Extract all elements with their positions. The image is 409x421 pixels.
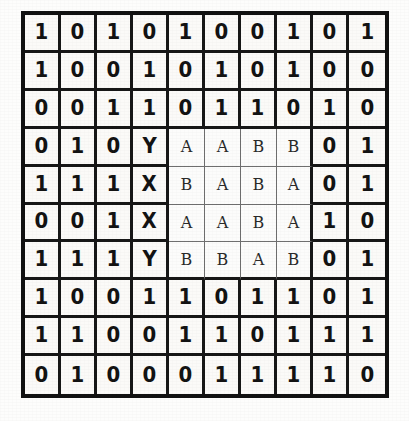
cell-value: 1 [287, 325, 301, 346]
bit-cell: 1 [277, 53, 313, 91]
cell-value: 0 [35, 98, 49, 119]
bit-cell: 1 [349, 280, 385, 318]
bit-cell: 1 [277, 280, 313, 318]
bit-cell: 1 [277, 318, 313, 356]
cell-value: B [181, 252, 193, 268]
cell-value: 0 [71, 287, 85, 308]
bit-cell: 0 [61, 280, 97, 318]
cell-value: 1 [71, 249, 85, 270]
letter-cell: A [205, 167, 241, 205]
cell-value: 1 [179, 287, 193, 308]
bit-cell: 0 [61, 205, 97, 243]
bit-cell: 0 [169, 356, 205, 394]
marker-cell: X [133, 205, 169, 243]
cell-value: 1 [107, 22, 121, 43]
bit-cell: 0 [25, 91, 61, 129]
bit-cell: 1 [133, 280, 169, 318]
cell-value: 0 [323, 136, 337, 157]
bit-cell: 1 [349, 167, 385, 205]
cell-value: 1 [71, 325, 85, 346]
cell-value: B [253, 177, 265, 193]
cell-value: B [253, 139, 265, 155]
bit-cell: 0 [169, 53, 205, 91]
cell-value: 1 [143, 98, 157, 119]
bit-cell: 0 [241, 15, 277, 53]
bit-cell: 0 [169, 91, 205, 129]
cell-value: 1 [360, 325, 374, 346]
bit-cell: 0 [97, 356, 133, 394]
bit-cell: 1 [241, 280, 277, 318]
cell-value: 0 [323, 287, 337, 308]
bit-cell: 0 [313, 167, 349, 205]
bit-cell: 0 [61, 91, 97, 129]
cell-value: A [181, 215, 193, 231]
cell-value: X [142, 211, 157, 232]
cell-value: 0 [323, 22, 337, 43]
cell-value: 1 [35, 287, 49, 308]
bit-cell: 1 [313, 356, 349, 394]
letter-cell: B [241, 129, 277, 167]
cell-value: 1 [287, 22, 301, 43]
bit-cell: 0 [313, 15, 349, 53]
bit-cell: 0 [349, 356, 385, 394]
bit-cell: 0 [277, 91, 313, 129]
bit-cell: 0 [25, 356, 61, 394]
letter-cell: B [169, 167, 205, 205]
cell-value: 0 [360, 211, 374, 232]
cell-value: X [142, 174, 157, 195]
cell-value: 0 [71, 211, 85, 232]
cell-value: 0 [323, 249, 337, 270]
bit-cell: 0 [241, 53, 277, 91]
cell-value: 1 [179, 325, 193, 346]
bit-cell: 1 [97, 91, 133, 129]
bit-cell: 0 [313, 242, 349, 280]
cell-value: 0 [360, 98, 374, 119]
cell-value: 0 [287, 98, 301, 119]
cell-value: 1 [360, 22, 374, 43]
cell-value: 0 [323, 60, 337, 81]
letter-cell: A [169, 129, 205, 167]
bit-cell: 1 [169, 280, 205, 318]
bit-cell: 1 [25, 15, 61, 53]
cell-value: 1 [215, 365, 229, 386]
bit-cell: 1 [205, 53, 241, 91]
cell-value: B [288, 252, 300, 268]
cell-value: 1 [35, 325, 49, 346]
bit-cell: 1 [133, 53, 169, 91]
cell-value: 0 [179, 60, 193, 81]
cell-value: 1 [143, 287, 157, 308]
cell-value: 1 [107, 249, 121, 270]
bit-cell: 0 [313, 280, 349, 318]
bit-cell: 0 [133, 318, 169, 356]
bit-cell: 1 [277, 356, 313, 394]
cell-value: 0 [251, 60, 265, 81]
bit-cell: 1 [313, 91, 349, 129]
cell-value: A [217, 215, 229, 231]
cell-value: A [288, 177, 300, 193]
bit-cell: 1 [169, 318, 205, 356]
page-root: 101010010110010101000011011010010YAABB01… [0, 0, 409, 421]
cell-value: 0 [143, 325, 157, 346]
cell-value: 1 [360, 174, 374, 195]
bit-cell: 0 [241, 318, 277, 356]
cell-value: 1 [107, 211, 121, 232]
cell-value: 0 [107, 365, 121, 386]
cell-value: 1 [71, 136, 85, 157]
cell-value: 1 [360, 287, 374, 308]
cell-value: 0 [35, 211, 49, 232]
cell-value: B [217, 252, 229, 268]
bit-cell: 1 [61, 242, 97, 280]
cell-value: 0 [179, 98, 193, 119]
bit-cell: 1 [97, 205, 133, 243]
bit-cell: 1 [97, 242, 133, 280]
cell-value: 1 [287, 365, 301, 386]
letter-cell: B [277, 129, 313, 167]
cell-value: 0 [215, 22, 229, 43]
bit-cell: 1 [61, 129, 97, 167]
bit-cell: 1 [61, 356, 97, 394]
bit-cell: 0 [25, 205, 61, 243]
bit-cell: 1 [349, 318, 385, 356]
cell-value: 0 [143, 22, 157, 43]
cell-value: Y [142, 136, 156, 157]
cell-value: 1 [323, 98, 337, 119]
